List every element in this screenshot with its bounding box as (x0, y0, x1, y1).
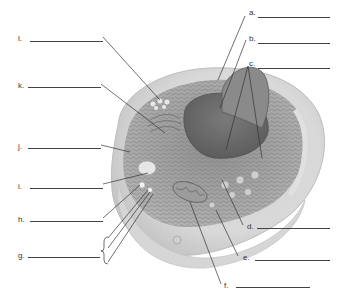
label-h: h. (18, 215, 25, 225)
label-e: e. (243, 253, 250, 263)
label-l: l. (18, 34, 22, 44)
answer-blank-j[interactable] (28, 148, 101, 149)
label-j: j. (18, 142, 22, 152)
answer-blank-k[interactable] (28, 87, 101, 88)
label-a: a. (249, 8, 256, 18)
label-f: f. (224, 281, 228, 291)
bracket-g (101, 237, 108, 264)
answer-blank-d[interactable] (257, 228, 330, 229)
label-g: g. (18, 251, 25, 261)
answer-blank-b[interactable] (258, 43, 330, 44)
label-k: k. (18, 81, 24, 91)
answer-blank-l[interactable] (30, 41, 103, 42)
label-i: i. (18, 182, 22, 192)
answer-blank-h[interactable] (30, 221, 103, 222)
answer-blank-c[interactable] (258, 68, 330, 69)
cell-diagram-figure: a. b. c. d. e. f. l. k. j. i. h. g. (0, 0, 347, 296)
answer-blank-g[interactable] (28, 257, 100, 258)
answer-blank-i[interactable] (30, 188, 103, 189)
answer-blank-e[interactable] (255, 260, 330, 261)
label-b: b. (249, 34, 256, 44)
label-c: c. (249, 59, 255, 69)
label-d: d. (247, 222, 254, 232)
answer-blank-a[interactable] (258, 17, 330, 18)
answer-blank-f[interactable] (236, 287, 310, 288)
